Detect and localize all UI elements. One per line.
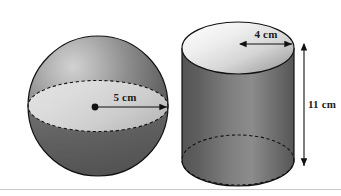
sphere-radius-label: 5 cm [113,91,136,103]
cylinder-height-label: 11 cm [308,98,336,110]
figure-canvas: 5 cm 4 cm 11 cm [0,0,341,196]
cylinder-radius-label: 4 cm [254,28,277,40]
geometry-figure: 5 cm 4 cm 11 cm [0,0,341,196]
sphere-group: 5 cm [28,36,168,182]
cylinder-group: 4 cm 11 cm [182,22,336,186]
